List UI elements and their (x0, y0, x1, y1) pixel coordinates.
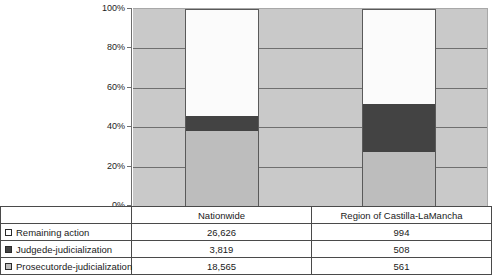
legend-label-judge-dejudicialization: Judgede-judicialization (16, 244, 112, 255)
bar-column-region-castilla-lamancha (310, 9, 487, 206)
bar-segment-remaining-action-region[interactable] (363, 9, 435, 104)
chart-page: 100% 80% 60% 40% 20% 0% (0, 0, 493, 278)
bar-segment-prosecutor-dejudicialization-nationwide[interactable] (186, 131, 258, 206)
y-axis-line (131, 8, 132, 206)
cell-remaining-action-nationwide: 26,626 (132, 224, 312, 241)
column-header-region: Region of Castilla-LaMancha (312, 207, 492, 224)
table-header-row: Nationwide Region of Castilla-LaMancha (1, 207, 492, 224)
bar-segment-judge-dejudicialization-region[interactable] (363, 104, 435, 152)
cell-judge-dejudicialization-nationwide: 3,819 (132, 241, 312, 258)
legend-label-remaining-action: Remaining action (16, 227, 89, 238)
cell-prosecutor-dejudicialization-region: 561 (312, 258, 492, 275)
y-tick-label-80: 80% (107, 43, 125, 52)
table-row: Judgede-judicialization 3,819 508 (1, 241, 492, 258)
plot-area (133, 8, 488, 206)
bar-stack-nationwide[interactable] (185, 9, 259, 206)
y-tick-label-40: 40% (107, 122, 125, 131)
table-row: Remaining action 26,626 994 (1, 224, 492, 241)
y-axis: 100% 80% 60% 40% 20% 0% (90, 0, 132, 207)
cell-remaining-action-region: 994 (312, 224, 492, 241)
column-header-nationwide: Nationwide (132, 207, 312, 224)
legend-label-prosecutor-dejudicialization: Prosecutorde-judicialization (16, 261, 132, 272)
legend-swatch-remaining-action-icon (5, 229, 12, 236)
legend-swatch-prosecutor-dejudicialization-icon (5, 263, 12, 270)
y-tick-label-60: 60% (107, 83, 125, 92)
legend-item-judge-dejudicialization[interactable]: Judgede-judicialization (1, 241, 132, 258)
cell-judge-dejudicialization-region: 508 (312, 241, 492, 258)
bar-column-nationwide (133, 9, 310, 206)
table-row: Prosecutorde-judicialization 18,565 561 (1, 258, 492, 275)
legend-data-table: Nationwide Region of Castilla-LaMancha R… (0, 206, 492, 275)
legend-swatch-judge-dejudicialization-icon (5, 246, 12, 253)
legend-item-remaining-action[interactable]: Remaining action (1, 224, 132, 241)
legend-item-prosecutor-dejudicialization[interactable]: Prosecutorde-judicialization (1, 258, 132, 275)
stacked-bar-chart: 100% 80% 60% 40% 20% 0% (0, 0, 493, 207)
bar-segment-judge-dejudicialization-nationwide[interactable] (186, 116, 258, 131)
y-tick-label-100: 100% (102, 4, 125, 13)
bar-segment-prosecutor-dejudicialization-region[interactable] (363, 152, 435, 206)
table-corner-cell (1, 207, 132, 224)
y-tick-label-20: 20% (107, 162, 125, 171)
cell-prosecutor-dejudicialization-nationwide: 18,565 (132, 258, 312, 275)
bar-stack-region-castilla-lamancha[interactable] (362, 9, 436, 206)
bar-segment-remaining-action-nationwide[interactable] (186, 9, 258, 116)
